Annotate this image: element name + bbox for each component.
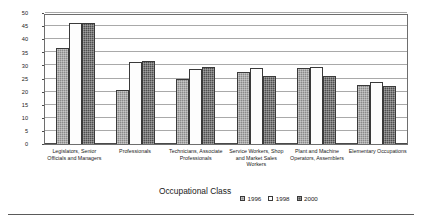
bar-1996[interactable]	[357, 85, 370, 144]
bar-groups	[45, 15, 407, 144]
bar-group	[286, 15, 346, 144]
y-tick-label-40: 40	[14, 37, 28, 43]
x-axis-label: Service Workers, Shopand Market Sales Wo…	[226, 148, 287, 172]
y-tick-label-30: 30	[14, 64, 28, 70]
y-tick-label-0: 0	[14, 142, 28, 148]
y-tick-label-50: 50	[14, 11, 28, 17]
bar-1996[interactable]	[56, 48, 69, 144]
y-tick-label-25: 25	[14, 77, 28, 83]
x-axis-label-line: Elementary Occupations	[348, 148, 407, 155]
bar-group	[45, 15, 105, 144]
x-axis-label: Elementary Occupations	[347, 148, 408, 172]
x-axis-label: Plant and MachineOperators, Assemblers	[287, 148, 348, 172]
bar-2000[interactable]	[82, 23, 95, 144]
bar-chart-figure: Gap between Average Male Wage and Averag…	[0, 0, 422, 221]
x-axis-label: Professionals	[105, 148, 166, 172]
y-tick-label-20: 20	[14, 90, 28, 96]
bar-2000[interactable]	[383, 86, 396, 144]
plot-area	[44, 14, 408, 145]
x-axis-label-line: Operators, Assemblers	[288, 155, 347, 162]
x-axis-label: Legislators, SeniorOfficials and Manager…	[44, 148, 105, 172]
x-axis-label-line: Professionals	[106, 148, 165, 155]
y-tick-label-10: 10	[14, 116, 28, 122]
x-axis-label-line: Professionals	[166, 155, 225, 162]
bar-1998[interactable]	[189, 69, 202, 144]
bar-1996[interactable]	[176, 79, 189, 144]
bar-2000[interactable]	[263, 76, 276, 144]
legend-label: 1998	[276, 195, 290, 202]
x-axis-label-line: Plant and Machine	[288, 148, 347, 155]
x-axis-label-line: Legislators, Senior	[45, 148, 104, 155]
bar-1996[interactable]	[237, 72, 250, 144]
legend-item-2000[interactable]: 2000	[297, 195, 318, 202]
legend-label: 1996	[248, 195, 262, 202]
y-tick-label-45: 45	[14, 24, 28, 30]
gridline-50	[45, 12, 407, 13]
y-tick-label-15: 15	[14, 103, 28, 109]
bar-2000[interactable]	[202, 67, 215, 144]
bar-group	[166, 15, 226, 144]
x-axis-label-line: Technicians, Associate	[166, 148, 225, 155]
bar-1998[interactable]	[370, 82, 383, 144]
bar-1998[interactable]	[310, 67, 323, 144]
legend-swatch-icon	[240, 196, 245, 201]
bar-group	[105, 15, 165, 144]
bar-group	[347, 15, 407, 144]
x-axis-label-line: Officials and Managers	[45, 155, 104, 162]
legend-swatch-icon	[297, 196, 302, 201]
bar-2000[interactable]	[323, 76, 336, 144]
bar-1996[interactable]	[297, 68, 310, 144]
y-tick-label-35: 35	[14, 51, 28, 57]
legend-item-1996[interactable]: 1996	[240, 195, 261, 202]
bar-1996[interactable]	[116, 90, 129, 144]
legend-item-1998[interactable]: 1998	[268, 195, 289, 202]
y-tick-label-5: 5	[14, 129, 28, 135]
legend-label: 2000	[304, 195, 318, 202]
chart-legend: 199619982000	[240, 195, 318, 202]
bar-2000[interactable]	[142, 61, 155, 144]
x-axis-category-labels: Legislators, SeniorOfficials and Manager…	[44, 148, 408, 172]
legend-swatch-icon	[268, 196, 273, 201]
x-axis-label: Technicians, AssociateProfessionals	[165, 148, 226, 172]
bottom-divider	[8, 214, 414, 215]
x-axis-label-line: Service Workers, Shop	[227, 148, 286, 155]
bar-1998[interactable]	[69, 23, 82, 144]
bar-1998[interactable]	[250, 68, 263, 144]
bar-group	[226, 15, 286, 144]
x-axis-label-line: and Market Sales Workers	[227, 155, 286, 168]
bar-1998[interactable]	[129, 62, 142, 144]
